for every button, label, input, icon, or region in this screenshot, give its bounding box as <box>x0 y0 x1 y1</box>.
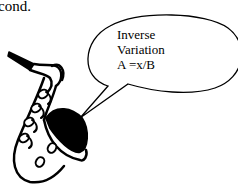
saxophone-icon <box>8 52 87 182</box>
bubble-line-3: A =x/B <box>117 57 165 72</box>
bubble-line-1: Inverse <box>117 27 165 42</box>
bubble-line-2: Variation <box>117 42 165 57</box>
speech-bubble-text: Inverse Variation A =x/B <box>117 27 165 72</box>
